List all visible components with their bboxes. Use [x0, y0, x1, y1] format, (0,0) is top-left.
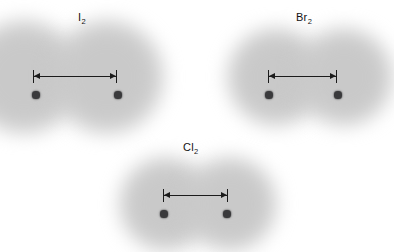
bond-length-arrow-chlorine — [163, 189, 228, 202]
electron-cloud-chlorine — [124, 160, 266, 246]
atom-nucleus — [160, 210, 167, 217]
arrow-shaft — [163, 195, 228, 196]
molecule-label-chlorine: Cl2 — [183, 142, 198, 153]
cloud-lobe — [118, 156, 214, 252]
formula-subscript: 2 — [194, 147, 198, 156]
cloud-lobe — [182, 156, 278, 252]
arrow-head-right — [221, 192, 227, 198]
element-symbol: Cl — [183, 141, 194, 153]
arrow-head-left — [164, 192, 170, 198]
atom-nucleus — [223, 210, 230, 217]
end-tick-right — [227, 189, 228, 202]
